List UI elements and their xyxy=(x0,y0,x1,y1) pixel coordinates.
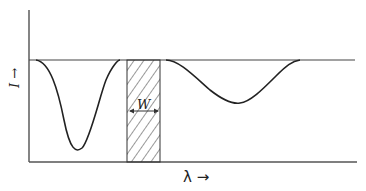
window-width-label: W xyxy=(137,97,150,112)
y-axis-label: I → xyxy=(7,63,31,93)
spectrum-diagram xyxy=(0,0,366,191)
broad-absorption-line xyxy=(166,60,300,103)
narrow-absorption-line xyxy=(36,60,120,150)
x-axis-label: λ → xyxy=(183,168,209,186)
